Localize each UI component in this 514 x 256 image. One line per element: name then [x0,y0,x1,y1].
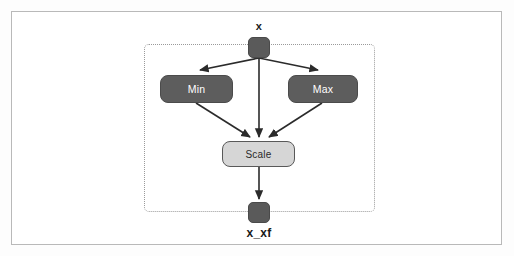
diagram-canvas: x Min Max Scale x_xf [0,0,514,256]
block-min[interactable]: Min [160,75,233,103]
block-max-label: Max [313,83,333,95]
output-port-label: x_xf [218,226,300,240]
input-port-label: x [228,20,290,32]
block-max[interactable]: Max [288,75,358,103]
subsystem-boundary [144,44,375,212]
input-port-x[interactable] [248,37,270,58]
block-min-label: Min [188,83,206,95]
output-port-x-xf[interactable] [248,202,270,223]
block-scale[interactable]: Scale [222,141,295,167]
block-scale-label: Scale [245,149,271,160]
